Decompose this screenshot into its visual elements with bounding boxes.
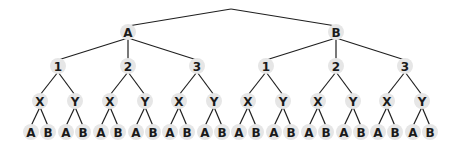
node-label: B bbox=[331, 26, 340, 40]
node-label: B bbox=[78, 126, 87, 140]
tree-edge bbox=[197, 72, 214, 95]
node-level1-b: B bbox=[328, 24, 344, 40]
leaf-node-a: A bbox=[266, 124, 282, 140]
tree-edge bbox=[248, 107, 256, 126]
tree-edge bbox=[413, 107, 422, 126]
node-label: 1 bbox=[54, 60, 62, 74]
leaf-node-a: A bbox=[231, 124, 247, 140]
node-label: A bbox=[408, 126, 418, 140]
tree-edge bbox=[248, 72, 266, 95]
tree-edge bbox=[266, 72, 283, 95]
node-level3-x: X bbox=[310, 93, 326, 109]
leaf-node-a: A bbox=[162, 124, 178, 140]
tree-edge bbox=[283, 107, 291, 126]
leaf-node-b: B bbox=[353, 124, 369, 140]
tree-edge bbox=[128, 9, 231, 26]
node-label: A bbox=[165, 126, 175, 140]
leaf-node-b: B bbox=[179, 124, 195, 140]
leaf-node-a: A bbox=[23, 124, 39, 140]
leaf-node-b: B bbox=[422, 124, 438, 140]
node-label: B bbox=[148, 126, 157, 140]
node-level3-x: X bbox=[102, 93, 118, 109]
leaf-node-b: B bbox=[283, 124, 299, 140]
node-label: Y bbox=[70, 95, 80, 109]
node-label: X bbox=[174, 95, 184, 109]
tree-edge bbox=[231, 9, 336, 26]
tree-edge bbox=[40, 72, 58, 95]
node-label: 3 bbox=[193, 60, 201, 74]
tree-edge bbox=[58, 38, 128, 60]
node-label: A bbox=[26, 126, 36, 140]
node-label: Y bbox=[417, 95, 427, 109]
tree-edges bbox=[31, 9, 430, 126]
leaf-node-b: B bbox=[248, 124, 264, 140]
node-label: B bbox=[356, 126, 365, 140]
leaf-node-a: A bbox=[128, 124, 144, 140]
tree-edge bbox=[336, 72, 353, 95]
node-level2-2: 2 bbox=[328, 58, 344, 74]
node-label: 2 bbox=[332, 60, 340, 74]
tree-edge bbox=[336, 38, 405, 60]
node-label: Y bbox=[278, 95, 288, 109]
node-level3-y: Y bbox=[275, 93, 291, 109]
node-level3-y: Y bbox=[67, 93, 83, 109]
leaf-node-b: B bbox=[214, 124, 230, 140]
node-label: Y bbox=[209, 95, 219, 109]
node-level1-a: A bbox=[120, 24, 136, 40]
node-label: B bbox=[425, 126, 434, 140]
node-label: A bbox=[234, 126, 244, 140]
node-level3-x: X bbox=[171, 93, 187, 109]
node-label: A bbox=[123, 26, 133, 40]
tree-edge bbox=[145, 107, 153, 126]
node-label: 3 bbox=[401, 60, 409, 74]
node-label: B bbox=[321, 126, 330, 140]
tree-edge bbox=[128, 72, 145, 95]
tree-edge bbox=[344, 107, 353, 126]
leaf-node-b: B bbox=[387, 124, 403, 140]
tree-edge bbox=[75, 107, 83, 126]
node-label: B bbox=[182, 126, 191, 140]
tree-edge bbox=[58, 72, 75, 95]
tree-edge bbox=[309, 107, 318, 126]
node-label: A bbox=[304, 126, 314, 140]
node-label: B bbox=[251, 126, 260, 140]
tree-edge bbox=[31, 107, 40, 126]
node-label: X bbox=[35, 95, 45, 109]
leaf-node-a: A bbox=[336, 124, 352, 140]
tree-edge bbox=[110, 72, 128, 95]
tree-edge bbox=[40, 107, 48, 126]
tree-edge bbox=[170, 107, 179, 126]
leaf-node-b: B bbox=[75, 124, 91, 140]
leaf-node-b: B bbox=[40, 124, 56, 140]
node-label: 2 bbox=[124, 60, 132, 74]
leaf-node-b: B bbox=[145, 124, 161, 140]
node-label: A bbox=[339, 126, 349, 140]
tree-edge bbox=[387, 72, 405, 95]
node-label: B bbox=[390, 126, 399, 140]
leaf-node-a: A bbox=[405, 124, 421, 140]
node-level3-y: Y bbox=[137, 93, 153, 109]
node-label: B bbox=[113, 126, 122, 140]
tree-nodes: A1XABYAB2XABYAB3XABYABB1XABYAB2XABYAB3XA… bbox=[23, 24, 438, 140]
node-label: B bbox=[286, 126, 295, 140]
tree-edge bbox=[353, 107, 361, 126]
node-label: A bbox=[61, 126, 71, 140]
node-level3-y: Y bbox=[206, 93, 222, 109]
tree-edge bbox=[214, 107, 222, 126]
node-level3-x: X bbox=[379, 93, 395, 109]
tree-edge bbox=[318, 107, 326, 126]
tree-edge bbox=[266, 38, 336, 60]
node-level2-1: 1 bbox=[258, 58, 274, 74]
leaf-node-a: A bbox=[58, 124, 74, 140]
tree-edge bbox=[405, 72, 422, 95]
node-level3-x: X bbox=[240, 93, 256, 109]
tree-edge bbox=[387, 107, 395, 126]
tree-edge bbox=[274, 107, 283, 126]
node-label: A bbox=[200, 126, 210, 140]
leaf-node-a: A bbox=[197, 124, 213, 140]
node-label: B bbox=[217, 126, 226, 140]
node-level3-y: Y bbox=[345, 93, 361, 109]
node-label: Y bbox=[348, 95, 358, 109]
node-level2-2: 2 bbox=[120, 58, 136, 74]
tree-edge bbox=[66, 107, 75, 126]
